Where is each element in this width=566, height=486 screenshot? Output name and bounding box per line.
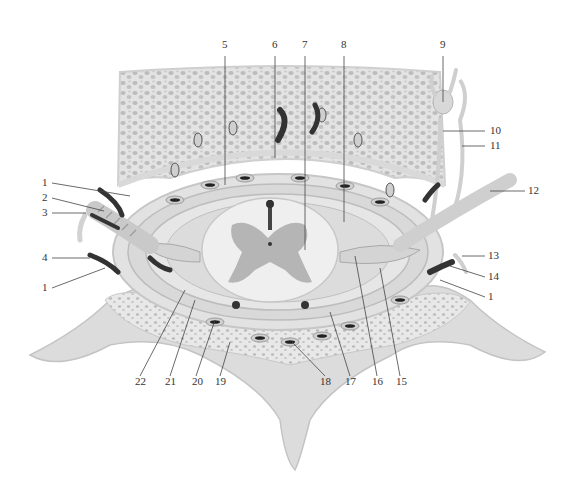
callout-label-17: 17 [345,376,356,387]
callout-label-3: 3 [42,207,48,218]
callout-label-15: 15 [396,376,407,387]
callout-label-1: 1 [42,177,48,188]
callout-label-10: 10 [490,125,501,136]
callout-label-8: 8 [341,39,347,50]
callout-label-19: 19 [215,376,226,387]
callout-label-5: 5 [222,39,228,50]
callout-label-2: 2 [42,192,48,203]
callout-label-18: 18 [320,376,331,387]
callout-label-1c: 1 [488,291,494,302]
callout-label-14: 14 [488,271,499,282]
callout-label-6: 6 [272,39,278,50]
callout-label-7: 7 [302,39,308,50]
callout-label-21: 21 [165,376,176,387]
callout-label-22: 22 [135,376,146,387]
callout-label-16: 16 [372,376,383,387]
callout-label-4: 4 [42,252,48,263]
callout-label-12: 12 [528,185,539,196]
callout-label-11: 11 [490,140,501,151]
callout-label-13: 13 [488,250,499,261]
callout-label-1b: 1 [42,282,48,293]
callout-label-9: 9 [440,39,446,50]
spinal-canal-diagram [0,0,566,486]
callout-label-20: 20 [192,376,203,387]
